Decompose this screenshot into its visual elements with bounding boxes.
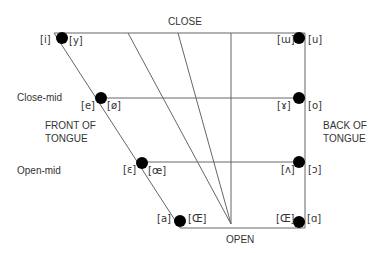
vowel-OE-front: [Œ] xyxy=(188,213,207,224)
vowel-i: [i] xyxy=(40,34,51,45)
vowel-open-o: [ɔ] xyxy=(308,164,321,175)
vowel-unrounded-u: [ɯ] xyxy=(277,34,295,45)
vowel-dot-open-front xyxy=(174,215,186,227)
back-of-tongue-label-1: BACK OF xyxy=(323,120,367,131)
vowel-script-a: [ɑ] xyxy=(307,213,321,224)
back-of-tongue-label-2: TONGUE xyxy=(323,133,366,144)
central-line-1 xyxy=(128,33,231,224)
vowel-e: [e] xyxy=(81,100,95,111)
vowel-epsilon: [ɛ] xyxy=(123,164,136,175)
close-mid-label: Close-mid xyxy=(17,92,62,103)
vowel-dot-openmid-front xyxy=(136,157,148,169)
front-of-tongue-label-2: TONGUE xyxy=(45,133,88,144)
open-label: OPEN xyxy=(226,234,254,245)
vowel-wedge: [ʌ] xyxy=(281,164,295,175)
vowel-o-slash: [ø] xyxy=(107,100,121,111)
vowel-dot-close-front xyxy=(56,32,68,44)
vowel-OE-back: [Œ] xyxy=(276,213,295,224)
vowel-o: [o] xyxy=(308,100,322,111)
vowel-y: [y] xyxy=(69,35,83,46)
vowel-dot-closemid-back xyxy=(293,92,305,104)
vowel-dot-closemid-front xyxy=(95,92,107,104)
close-label: CLOSE xyxy=(168,16,202,27)
vowel-ram-horns: [ɤ] xyxy=(277,100,291,111)
vowel-u: [u] xyxy=(308,34,322,45)
vowel-a: [a] xyxy=(157,213,171,224)
vowel-oe: [œ] xyxy=(148,165,166,176)
front-of-tongue-label-1: FRONT OF xyxy=(45,120,96,131)
open-mid-label: Open-mid xyxy=(17,165,61,176)
central-line-2 xyxy=(178,33,231,224)
